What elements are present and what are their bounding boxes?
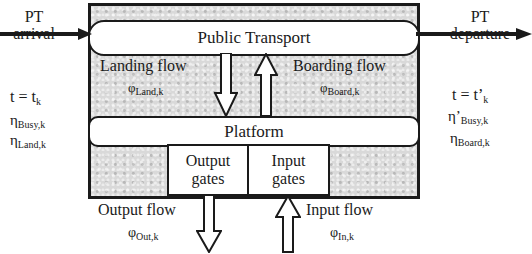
input-gates-box: Input gates bbox=[247, 144, 330, 196]
input-gates-line1: Input bbox=[272, 152, 306, 170]
pt-arrival-line1: PT bbox=[4, 8, 64, 25]
pt-departure-label: PT departure bbox=[438, 8, 522, 42]
public-transport-box: Public Transport bbox=[88, 20, 420, 56]
landing-arrow-icon bbox=[214, 53, 238, 117]
eta-board: ηBoard,k bbox=[450, 130, 490, 148]
pt-arrival-line2: arrival bbox=[4, 25, 64, 42]
output-gates-line1: Output bbox=[186, 152, 230, 170]
eta-land: ηLand,k bbox=[10, 132, 46, 150]
output-gates-line2: gates bbox=[192, 170, 225, 188]
boarding-flow-label: Boarding flow bbox=[293, 57, 386, 75]
output-flow-label: Output flow bbox=[98, 201, 176, 219]
input-gates-line2: gates bbox=[272, 170, 305, 188]
platform-box: Platform bbox=[88, 116, 420, 147]
platform-label: Platform bbox=[224, 122, 284, 142]
output-flow-symbol: φOut,k bbox=[128, 225, 159, 242]
output-arrow-icon bbox=[196, 195, 222, 253]
boarding-arrow-icon bbox=[254, 53, 278, 117]
output-gates-box: Output gates bbox=[167, 144, 249, 196]
pt-departure-line1: PT bbox=[438, 8, 522, 25]
arrival-time: t = tk bbox=[10, 88, 41, 107]
eta-busy-arrival: ηBusy,k bbox=[10, 112, 45, 130]
eta-busy-departure: η’Busy,k bbox=[448, 108, 488, 126]
landing-flow-symbol: φLand,k bbox=[128, 80, 164, 97]
input-arrow-icon bbox=[275, 195, 301, 253]
pt-departure-line2: departure bbox=[438, 25, 522, 42]
input-flow-label: Input flow bbox=[306, 201, 373, 219]
input-flow-symbol: φIn,k bbox=[330, 225, 354, 242]
departure-time: t = t’k bbox=[452, 86, 488, 105]
landing-flow-label: Landing flow bbox=[100, 57, 187, 75]
boarding-flow-symbol: φBoard,k bbox=[320, 80, 359, 97]
pt-arrival-label: PT arrival bbox=[4, 8, 64, 42]
public-transport-label: Public Transport bbox=[198, 28, 311, 48]
